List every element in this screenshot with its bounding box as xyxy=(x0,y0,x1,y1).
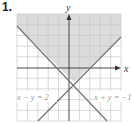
graph: x y x − y = 2 x + y = −1 xyxy=(0,0,132,124)
x-axis-arrow-icon xyxy=(115,66,121,71)
y-axis-label: y xyxy=(65,2,71,13)
line2-label: x + y = −1 xyxy=(93,92,132,102)
line1-label: x − y = 2 xyxy=(16,92,50,102)
x-axis-label: x xyxy=(123,63,129,74)
